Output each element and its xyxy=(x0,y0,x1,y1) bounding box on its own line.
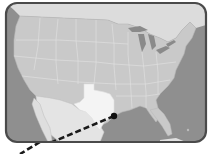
us-map xyxy=(0,0,210,154)
location-marker[interactable] xyxy=(111,113,117,119)
island xyxy=(187,129,189,131)
map-body xyxy=(0,0,210,154)
route-dashed-line-outside xyxy=(20,142,40,154)
